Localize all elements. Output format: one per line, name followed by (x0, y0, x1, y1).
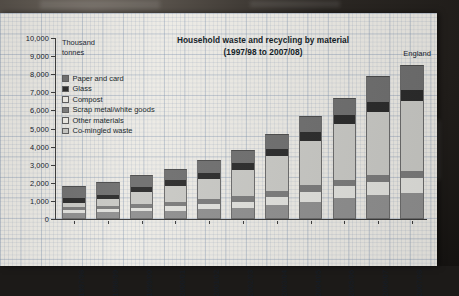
bar-segment (130, 175, 154, 188)
bar-segment (366, 76, 390, 102)
y-axis-tick-label: 6,000 (30, 106, 49, 115)
bar-1997-98 (62, 186, 86, 219)
bar-segment (366, 195, 390, 219)
bar-segment (366, 102, 390, 112)
bar-segment (265, 134, 289, 149)
bar-segment (231, 150, 255, 163)
y-axis-tick-label: 1,000 (30, 196, 49, 205)
photo-highlight (40, 0, 160, 9)
x-axis-tick-label: 2006/07 (381, 270, 390, 296)
bar-2004-05 (299, 116, 323, 219)
bar-segment (299, 132, 323, 141)
bar-segment (265, 197, 289, 205)
bar-segment (197, 179, 221, 200)
x-axis-tick-label: 2002/03 (246, 270, 255, 296)
bar-1999-00 (130, 175, 154, 219)
bar-group (55, 38, 427, 219)
bar-segment (400, 193, 424, 219)
bar-segment (130, 211, 154, 219)
bar-segment (96, 212, 120, 219)
y-axis-tick-label: 3,000 (30, 160, 49, 169)
bar-2001-02 (197, 160, 221, 219)
bar-segment (96, 182, 120, 195)
photo-highlight (250, 1, 340, 7)
x-axis-tick-label: 2007/08 (415, 270, 424, 296)
bar-segment (400, 65, 424, 90)
bar-2002-03 (231, 150, 255, 219)
y-axis-tick-label: 9,000 (30, 52, 49, 61)
y-axis-tick-label: 4,000 (30, 142, 49, 151)
bar-2007-08 (400, 65, 424, 219)
x-axis-tick-label: 2003/04 (280, 270, 289, 296)
bar-segment (197, 209, 221, 219)
bar-segment (333, 115, 357, 124)
bar-segment (62, 213, 86, 219)
bar-2003-04 (265, 134, 289, 219)
bar-segment (333, 98, 357, 115)
bar-segment (197, 160, 221, 172)
bar-segment (164, 186, 188, 202)
x-axis-tick (74, 221, 75, 224)
bar-segment (299, 116, 323, 132)
x-axis-tick-label: 2004/05 (314, 270, 323, 296)
x-axis-tick (142, 221, 143, 224)
bar-segment (366, 175, 390, 182)
x-axis-tick-label: 1999/00 (145, 270, 154, 296)
x-axis-tick (277, 221, 278, 224)
x-axis-tick-label: 1997/98 (77, 270, 86, 296)
bar-segment (231, 208, 255, 219)
bar-segment (231, 170, 255, 196)
bar-segment (164, 211, 188, 220)
y-axis-tick-label: 5,000 (30, 124, 49, 133)
x-axis-tick-label: 2001/02 (212, 270, 221, 296)
bar-segment (400, 90, 424, 101)
x-axis-tick (311, 221, 312, 224)
bar-segment (400, 101, 424, 171)
bar-segment (231, 163, 255, 170)
bar-segment (299, 141, 323, 185)
bar-segment (299, 192, 323, 202)
bar-segment (333, 124, 357, 179)
bar-segment (265, 205, 289, 219)
bar-segment (299, 202, 323, 219)
bar-segment (333, 198, 357, 219)
x-axis-tick (209, 221, 210, 224)
bar-segment (400, 178, 424, 192)
y-axis-tick-label: 8,000 (30, 70, 49, 79)
bar-segment (265, 149, 289, 157)
x-axis-tick (378, 221, 379, 224)
chart-page: Household waste and recycling by materia… (0, 13, 437, 266)
bar-segment (96, 199, 120, 206)
x-axis-line (55, 219, 427, 220)
bar-2000-01 (164, 169, 188, 219)
bar-segment (366, 182, 390, 195)
bar-2005-06 (333, 98, 357, 219)
x-axis-tick (243, 221, 244, 224)
plot-area: 10,0009,0008,0007,0006,0005,0004,0003,00… (55, 38, 427, 220)
y-axis-tick-label: 2,000 (30, 178, 49, 187)
x-axis-tick (108, 221, 109, 224)
x-axis-tick-label: 2005/06 (347, 270, 356, 296)
bar-2006-07 (366, 76, 390, 219)
bar-segment (164, 169, 188, 180)
bar-segment (265, 156, 289, 190)
x-axis-tick-label: 1998/99 (111, 270, 120, 296)
y-axis-tick-label: 7,000 (30, 88, 49, 97)
bar-segment (62, 186, 86, 199)
x-axis-tick (344, 221, 345, 224)
bar-segment (130, 192, 154, 204)
y-axis-tick-label: 0 (45, 215, 49, 224)
x-axis-tick-label: 2000/01 (178, 270, 187, 296)
x-axis-tick (175, 221, 176, 224)
bar-segment (333, 180, 357, 187)
x-axis-tick (412, 221, 413, 224)
bar-segment (333, 186, 357, 198)
bar-1998-99 (96, 182, 120, 219)
y-axis-tick (51, 219, 55, 220)
x-axis-labels: 1997/981998/991999/002000/012001/022002/… (55, 222, 427, 274)
bar-segment (400, 171, 424, 179)
bar-segment (366, 112, 390, 175)
y-axis-tick-label: 10,000 (26, 34, 49, 43)
